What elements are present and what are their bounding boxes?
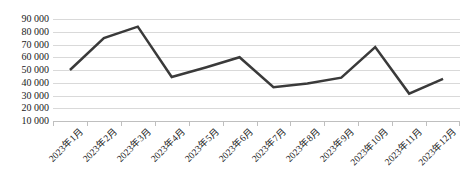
y-axis-tick-label: 50 000	[0, 65, 49, 75]
y-axis-tick-label: 30 000	[0, 91, 49, 101]
y-axis-tick-label: 90 000	[0, 14, 49, 24]
y-axis-tick-label: 20 000	[0, 103, 49, 113]
y-axis-tick-label: 10 000	[0, 116, 49, 126]
y-axis-tick-label: 60 000	[0, 52, 49, 62]
y-axis-tick-label: 80 000	[0, 27, 49, 37]
y-axis-tick-label: 70 000	[0, 40, 49, 50]
series-line	[70, 27, 443, 94]
y-axis-tick-label: 40 000	[0, 78, 49, 88]
line-chart: 90 00080 00070 00060 00050 00040 00030 0…	[0, 0, 471, 191]
series-line-group	[53, 19, 460, 121]
x-axis-labels: 2023年1月2023年2月2023年3月2023年4月2023年5月2023年…	[53, 126, 460, 191]
plot-area	[53, 19, 460, 121]
y-axis-labels: 90 00080 00070 00060 00050 00040 00030 0…	[0, 0, 49, 140]
